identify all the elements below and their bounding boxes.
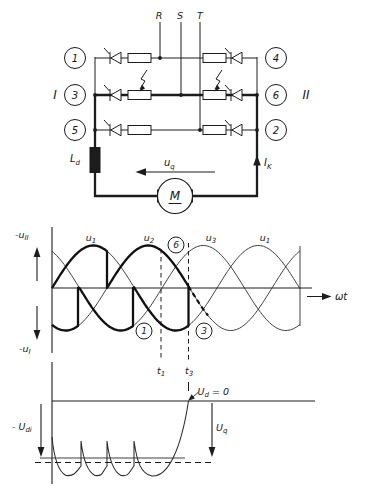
fuse-symbol-1 xyxy=(128,54,151,63)
thyristor-symbol-6 xyxy=(225,120,242,136)
t1-label: t1 xyxy=(157,365,165,378)
u1-label: u1 xyxy=(86,232,97,245)
inductor-Ld xyxy=(90,147,101,173)
fuse-symbol-6 xyxy=(203,126,226,135)
marker-6: 6 xyxy=(173,240,179,250)
thyristor-symbol-3 xyxy=(104,120,121,136)
thyristor-gate xyxy=(104,48,110,54)
thyristor-triangle xyxy=(111,52,121,64)
fuse-symbol-4 xyxy=(203,91,226,100)
thyristor-triangle xyxy=(111,89,121,101)
marker-3: 3 xyxy=(201,326,207,336)
marker-1: 1 xyxy=(141,326,147,336)
badge-3: 3 xyxy=(72,90,78,101)
ud0-arrowhead-icon xyxy=(188,394,195,401)
phase-label-s: S xyxy=(177,10,183,21)
uq-dc-label: Uq xyxy=(216,422,228,435)
thyristor-symbol-2 xyxy=(104,85,121,101)
uq-dc-arrowhead-icon xyxy=(209,447,216,457)
t3-label: t3 xyxy=(185,365,193,378)
uI-arrowhead-icon xyxy=(34,330,41,340)
firing-arrow-icon-2 xyxy=(215,70,223,92)
firing-arrow-icon-1 xyxy=(140,70,148,92)
u3-label: u3 xyxy=(206,232,217,245)
junction-dot-4 xyxy=(255,128,259,132)
ik-arrowhead-icon xyxy=(253,155,261,166)
u1b-label: u1 xyxy=(260,232,271,245)
uII-axis-label: -uII xyxy=(15,229,29,242)
fuse-symbol-5 xyxy=(128,126,151,135)
junction-dot-6 xyxy=(179,93,183,97)
phase-label-t: T xyxy=(197,10,204,21)
badge-4: 4 xyxy=(273,53,279,64)
uII-arrowhead-icon xyxy=(34,247,41,257)
badge-2: 2 xyxy=(273,125,279,136)
figure-converter-diagram: R S T Ld uq IK M I II xyxy=(0,0,367,494)
badge-6: 6 xyxy=(273,90,279,101)
fuse-symbol-3 xyxy=(128,91,151,100)
badge-5: 5 xyxy=(72,125,78,136)
badge-1: 1 xyxy=(72,53,78,64)
thyristor-gate xyxy=(104,120,110,126)
ik-label: IK xyxy=(264,157,273,171)
thyristor-triangle xyxy=(232,52,242,64)
thyristor-symbol-4 xyxy=(225,48,242,64)
junction-dot-7 xyxy=(198,128,202,132)
phase-label-r: R xyxy=(156,10,163,21)
firing-zigzag xyxy=(215,70,222,89)
group-label-II: II xyxy=(302,88,310,102)
circuit-section: R S T Ld uq IK M I II xyxy=(53,10,310,214)
dc-plot-section: - Udi Uq Ud = 0 xyxy=(12,362,315,484)
trace-upper-bold xyxy=(52,246,189,289)
thyristor-symbol-5 xyxy=(225,85,242,101)
udi-ripple-curve xyxy=(52,401,189,476)
circuit-components xyxy=(93,48,259,136)
trace-lower-bold xyxy=(52,287,189,330)
thyristor-triangle xyxy=(232,124,242,136)
group-label-I: I xyxy=(53,88,57,102)
firing-zigzag xyxy=(140,70,147,89)
thyristor-triangle xyxy=(111,124,121,136)
dc-curves xyxy=(52,401,189,476)
uI-axis-label: -uI xyxy=(19,343,31,356)
thyristor-triangle xyxy=(232,89,242,101)
wt-label: ωt xyxy=(335,291,348,302)
uq-label: uq xyxy=(164,157,175,171)
wave-plot-section: ωt -uII -uI t1 t3 u1 u2 u3 u1 6 1 3 xyxy=(15,227,348,391)
junction-dot-1 xyxy=(93,93,97,97)
thyristor-symbol-1 xyxy=(104,48,121,64)
junction-dot-5 xyxy=(158,56,162,60)
motor-label: M xyxy=(170,189,181,203)
diagram-svg: R S T Ld uq IK M I II xyxy=(0,0,367,494)
junction-dot-3 xyxy=(255,93,259,97)
thyristor-gate xyxy=(104,85,110,91)
udi-label: - Udi xyxy=(12,421,32,434)
ud0-label: Ud = 0 xyxy=(198,386,229,399)
uq-arrowhead-icon xyxy=(136,168,147,176)
wt-arrowhead-icon xyxy=(322,293,332,300)
fuse-symbol-2 xyxy=(203,54,226,63)
udi-arrowhead-icon xyxy=(38,447,45,457)
inductor-label: Ld xyxy=(70,153,81,167)
junction-dot-2 xyxy=(93,128,97,132)
u2-label: u2 xyxy=(144,232,155,245)
